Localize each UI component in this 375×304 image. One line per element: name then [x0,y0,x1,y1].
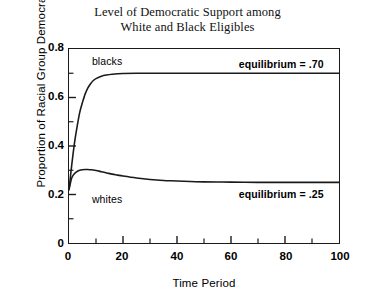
x-tick-label-100: 100 [316,250,364,262]
plot-area: blacks whites equilibrium = .70 equilibr… [68,48,340,244]
x-tick-label-80: 80 [262,250,310,262]
chart-figure: Level of Democratic Support among White … [0,0,375,304]
x-axis-minor-ticks [96,239,312,243]
plot-svg [69,49,339,243]
series-line-blacks [69,73,339,189]
x-tick-label-20: 20 [98,250,146,262]
x-tick-label-0: 0 [44,250,92,262]
annotation-equilibrium-blacks: equilibrium = .70 [239,58,324,70]
annotation-whites: whites [92,193,122,205]
x-tick-label-40: 40 [153,250,201,262]
annotation-equilibrium-whites: equilibrium = .25 [239,188,324,200]
x-tick-label-60: 60 [207,250,255,262]
series-line-whites [69,169,339,189]
annotation-blacks: blacks [92,55,122,67]
